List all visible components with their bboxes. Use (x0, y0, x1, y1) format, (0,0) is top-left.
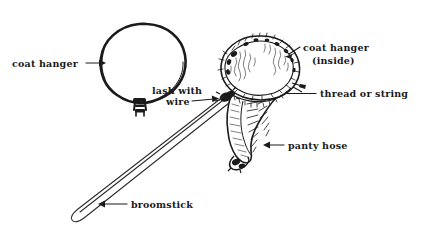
label-thread-or-string: thread or string (320, 88, 408, 99)
broomstick-inner-line (80, 101, 222, 212)
label-coat-hanger-inside-line1: coat hanger (303, 42, 370, 53)
label-broomstick: broomstick (131, 199, 193, 210)
arrowhead-panty-hose (263, 142, 270, 149)
net-bag-outline (227, 95, 276, 163)
label-texts: coat hanger lash with wire coat hanger (… (12, 42, 408, 210)
leader-lash-with-wire (192, 99, 214, 101)
net-ring-shading (230, 44, 288, 81)
label-panty-hose: panty hose (288, 140, 348, 151)
label-coat-hanger: coat hanger (12, 58, 79, 69)
thread-ends (292, 83, 306, 92)
hanger-stem-tail (136, 112, 144, 116)
hanger-twist-mid (135, 105, 145, 108)
label-leaders (86, 47, 316, 207)
label-lash-with-wire-line1: lash with (152, 85, 202, 96)
label-lash-with-wire-line2: wire (165, 96, 190, 107)
hanger-twist-top (133, 98, 146, 102)
lashing-knot (215, 87, 240, 103)
label-coat-hanger-inside-line2: (inside) (312, 55, 355, 66)
arrowhead-coat-hanger (99, 60, 106, 67)
illustration-canvas: coat hanger lash with wire coat hanger (… (0, 0, 421, 239)
